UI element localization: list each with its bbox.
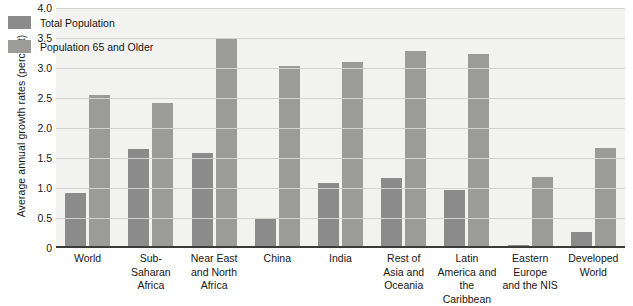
chart-legend: Total PopulationPopulation 65 and Older xyxy=(8,16,153,53)
bar xyxy=(255,219,276,248)
legend-swatch xyxy=(8,16,31,29)
y-axis-tick-label: 0.5 xyxy=(37,212,52,224)
y-axis-tick-label: 1.5 xyxy=(37,152,52,164)
x-axis-category-label: Near Eastand NorthAfrica xyxy=(182,252,245,306)
x-axis-category-label: World xyxy=(56,252,119,306)
x-axis-category-label: India xyxy=(309,252,372,306)
bar xyxy=(128,149,149,248)
gridline xyxy=(56,128,625,129)
x-axis-category-label: DevelopedWorld xyxy=(562,252,625,306)
gridline xyxy=(56,8,625,9)
chart-figure: Average annual growth rates (percent) 00… xyxy=(0,0,633,306)
bar xyxy=(89,95,110,248)
legend-label: Population 65 and Older xyxy=(40,41,153,53)
bar xyxy=(318,183,339,248)
gridline xyxy=(56,98,625,99)
x-axis-category-label: Rest ofAsia andOceania xyxy=(372,252,435,306)
y-axis-tick-label: 1.0 xyxy=(37,182,52,194)
legend-item[interactable]: Total Population xyxy=(8,16,153,29)
legend-swatch xyxy=(8,40,31,53)
x-axis-category-labels: WorldSub-SaharanAfricaNear Eastand North… xyxy=(56,252,625,306)
gridline xyxy=(56,68,625,69)
y-axis-tick-label: 2.0 xyxy=(37,122,52,134)
gridline xyxy=(56,158,625,159)
legend-label: Total Population xyxy=(40,17,115,29)
y-axis-tick-label: 2.5 xyxy=(37,92,52,104)
bar xyxy=(65,193,86,248)
y-axis-tick-label: 3.0 xyxy=(37,62,52,74)
gridline xyxy=(56,218,625,219)
x-axis-line xyxy=(56,246,625,248)
bar xyxy=(342,62,363,248)
x-axis-category-label: EasternEuropeand the NIS xyxy=(499,252,562,306)
bar xyxy=(216,39,237,248)
x-axis-category-label: Sub-SaharanAfrica xyxy=(119,252,182,306)
bar xyxy=(192,153,213,248)
bar xyxy=(279,66,300,248)
x-axis-category-label: China xyxy=(246,252,309,306)
bar xyxy=(595,148,616,248)
gridline xyxy=(56,188,625,189)
x-axis-category-label: LatinAmerica andthe Caribbean xyxy=(435,252,498,306)
y-axis-tick-label: 4.0 xyxy=(37,2,52,14)
y-axis-tick-label: 0 xyxy=(46,242,52,254)
legend-item[interactable]: Population 65 and Older xyxy=(8,40,153,53)
bar xyxy=(152,103,173,248)
